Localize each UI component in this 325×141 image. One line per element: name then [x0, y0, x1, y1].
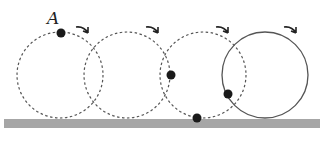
point-a-dot: [193, 114, 202, 123]
rotation-arrow-icon: [284, 27, 296, 33]
point-a-label: A: [47, 8, 59, 28]
rotation-arrow-icon: [216, 27, 228, 33]
ground-surface: [4, 119, 320, 128]
circle-position-2: [84, 32, 170, 118]
rotation-arrow-icon: [146, 27, 158, 33]
point-a-dot: [224, 90, 233, 99]
point-a-dot: [167, 71, 176, 80]
rolling-circle-diagram: A: [0, 0, 325, 141]
circle-position-4: [222, 32, 308, 118]
point-a-dot: [57, 29, 66, 38]
circle-position-1: [17, 32, 103, 118]
rotation-arrow-icon: [76, 27, 88, 33]
